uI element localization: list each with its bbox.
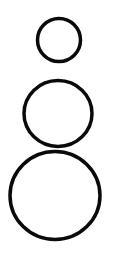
diagram-canvas [0,0,123,253]
stacked-circles-diagram [0,0,123,253]
large-circle [10,152,100,240]
medium-circle [24,81,92,147]
small-circle [38,19,81,62]
